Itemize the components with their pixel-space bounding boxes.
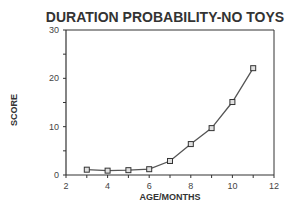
data-point-marker [188,142,193,147]
x-axis-label: AGE/MONTHS [139,192,200,202]
x-tick-label: 10 [227,181,237,191]
x-tick-label: 6 [147,181,152,191]
axes: 246810120102030 [49,25,279,191]
y-tick-label: 0 [54,170,59,180]
x-tick-label: 4 [105,181,110,191]
chart-title: DURATION PROBABILITY-NO TOYS [46,9,284,25]
x-tick-label: 2 [63,181,68,191]
data-point-marker [209,126,214,131]
data-point-marker [126,168,131,173]
data-point-marker [147,167,152,172]
line-chart: DURATION PROBABILITY-NO TOYS 24681012010… [0,0,293,216]
x-tick-label: 12 [269,181,279,191]
data-point-marker [84,167,89,172]
y-tick-label: 20 [49,73,59,83]
data-point-marker [251,66,256,71]
data-point-marker [105,168,110,173]
x-tick-label: 8 [188,181,193,191]
y-axis-label: SCORE [9,94,19,126]
y-tick-label: 30 [49,25,59,35]
data-point-marker [230,100,235,105]
y-tick-label: 10 [49,122,59,132]
data-series [84,66,255,173]
data-point-marker [168,158,173,163]
series-line [87,68,253,170]
